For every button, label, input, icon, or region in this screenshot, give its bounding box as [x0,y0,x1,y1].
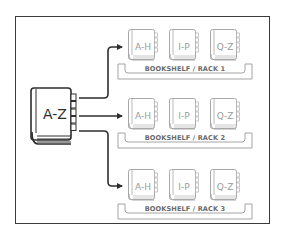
rack-1: A-H I-P Q-Z BOOKSHELF / RACK 1 [118,30,252,80]
book-label: A-H [135,42,151,52]
book-label: I-P [178,182,190,192]
arrows [79,47,122,186]
book-label: Q-Z [217,182,234,192]
rack-3: A-H I-P Q-Z BOOKSHELF / RACK 3 [118,170,252,220]
rack-label: BOOKSHELF / RACK 2 [145,134,226,142]
book-label: Q-Z [217,42,234,52]
arrow-to-rack-1 [79,47,122,98]
book-label: I-P [178,42,190,52]
book-label: A-H [135,182,151,192]
book-label: Q-Z [217,111,234,121]
arrow-to-rack-3 [79,131,122,186]
source-book-label: A-Z [43,106,67,122]
sharding-diagram: A-Z A-H I-P Q-Z BOOKSHELF / RACK 1 A-H I… [0,0,285,238]
source-book-icon: A-Z [31,88,76,144]
rack-label: BOOKSHELF / RACK 1 [145,65,226,73]
book-label: I-P [178,111,190,121]
rack-2: A-H I-P Q-Z BOOKSHELF / RACK 2 [118,99,252,149]
book-label: A-H [135,111,151,121]
rack-label: BOOKSHELF / RACK 3 [145,205,226,213]
